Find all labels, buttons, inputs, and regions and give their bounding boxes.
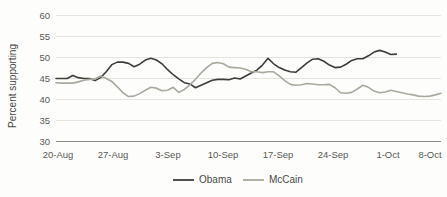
x-tick-label-5: 24-Sep [318,149,349,160]
x-tick-label-1: 27-Aug [98,149,129,160]
x-tick-label-7: 8-Oct [418,149,442,160]
x-tick-label-2: 3-Sep [155,149,180,160]
y-tick-label-40: 40 [39,94,50,105]
y-tick-label-55: 55 [39,31,50,42]
x-tick-label-4: 17-Sep [263,149,294,160]
x-tick-label-6: 1-Oct [376,149,400,160]
y-tick-label-30: 30 [39,136,50,147]
x-tick-label-0: 20-Aug [43,149,74,160]
chart-canvas: Percent supporting 60 55 50 45 40 35 30 … [0,0,447,197]
y-tick-label-35: 35 [39,115,50,126]
chart-background [0,0,447,197]
legend-label-obama: Obama [199,174,232,185]
y-tick-label-60: 60 [39,10,50,21]
x-tick-label-3: 10-Sep [208,149,239,160]
legend-label-mccain: McCain [269,174,303,185]
poll-trend-chart: Percent supporting 60 55 50 45 40 35 30 … [0,0,447,197]
y-tick-label-50: 50 [39,52,50,63]
y-axis-title: Percent supporting [7,44,18,128]
y-tick-label-45: 45 [39,73,50,84]
